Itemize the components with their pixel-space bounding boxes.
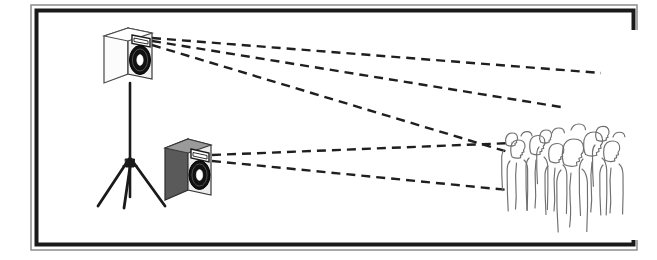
figure-canvas: Sound system coverage diagram Line drawi… — [0, 0, 657, 260]
sound-coverage-diagram: Sound system coverage diagram Line drawi… — [0, 0, 657, 260]
border-right-fade-mask-inner — [631, 30, 657, 240]
upper-speaker-dust-cap — [137, 55, 143, 66]
figure-background — [0, 0, 657, 260]
lower-speaker-dust-cap — [196, 170, 202, 181]
